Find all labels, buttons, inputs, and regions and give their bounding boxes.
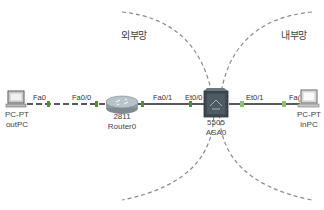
firewall-icon[interactable] <box>204 88 228 117</box>
port-label-outpc-fa0: Fa0 <box>33 93 46 102</box>
internal-zone-label: 내부망 <box>281 27 307 42</box>
asa0-label: 5505 ASA0 <box>200 118 232 138</box>
zone-boundaries <box>0 0 324 210</box>
outpc-name: outPC <box>2 120 32 130</box>
outpc-label: PC-PT outPC <box>2 110 32 130</box>
router0-name: Router0 <box>105 122 139 132</box>
port-label-asa-et00: Et0/0 <box>185 93 203 102</box>
port-label-router-fa00: Fa0/0 <box>72 93 91 102</box>
external-zone-label: 외부망 <box>121 27 147 42</box>
port-label-inpc-fa0: Fa( <box>289 93 300 102</box>
pc-icon[interactable] <box>298 90 319 107</box>
router0-label: 2811 Router0 <box>105 112 139 132</box>
port-label-asa-et01: Et0/1 <box>246 93 264 102</box>
inpc-label: PC-PT inPC <box>293 110 324 130</box>
port-label-router-fa01: Fa0/1 <box>153 93 172 102</box>
outpc-model: PC-PT <box>2 110 32 120</box>
inpc-model: PC-PT <box>293 110 324 120</box>
inpc-name: inPC <box>293 120 324 130</box>
router0-model: 2811 <box>105 112 139 122</box>
topology-canvas: 외부망 내부망 Fa0 Fa0/0 Fa0/1 Et0/0 Et0/1 Fa( … <box>0 0 324 210</box>
asa0-name: ASA0 <box>200 128 232 138</box>
asa0-model: 5505 <box>200 118 232 128</box>
pc-icon[interactable] <box>6 91 26 107</box>
